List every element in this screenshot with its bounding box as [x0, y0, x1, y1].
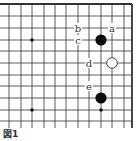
figure-caption: 図1 [3, 128, 18, 140]
point-label-e: e [86, 81, 92, 92]
point-label-c: c [75, 35, 81, 46]
white-stone [107, 58, 118, 69]
star-point [99, 108, 103, 112]
stones [95, 34, 117, 103]
point-label-d: d [86, 58, 93, 69]
point-labels: abcde [74, 23, 116, 92]
point-label-b: b [75, 23, 81, 34]
star-point [30, 38, 34, 42]
black-stone [95, 34, 106, 45]
point-label-a: a [109, 23, 115, 34]
star-point [30, 108, 34, 112]
black-stone [95, 92, 106, 103]
go-board-diagram: abcde [0, 0, 136, 128]
